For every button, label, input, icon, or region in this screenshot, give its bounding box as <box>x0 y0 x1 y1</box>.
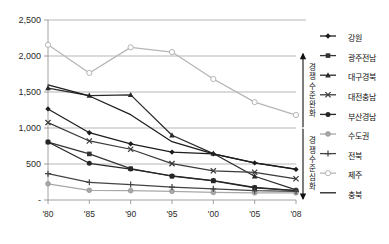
filled-circle-icon <box>326 112 331 117</box>
data-point-marker <box>128 188 133 193</box>
diamond-icon <box>45 106 50 111</box>
gray-circle-icon <box>128 188 133 193</box>
annotation-lower-char: 심 <box>309 172 316 182</box>
plus-icon <box>45 171 51 177</box>
data-point-marker <box>87 161 92 166</box>
annotation-upper: 경쟁수준완화 <box>300 53 316 127</box>
series-line <box>48 142 296 191</box>
x-axis-label: '85 <box>84 209 95 219</box>
annotation-upper-char: 준 <box>309 91 316 100</box>
y-axis-label: - <box>38 195 41 205</box>
square-icon <box>326 53 331 58</box>
legend-label-광주전남: 광주전남 <box>348 53 377 63</box>
legend-item-1[interactable]: 광주전남 <box>320 53 377 63</box>
y-axis-label: 2,500 <box>18 15 41 25</box>
plus-icon <box>128 182 134 188</box>
line-chart: -5001,0001,5002,0002,500'80'85'90'95'00'… <box>0 0 389 244</box>
data-point-marker <box>128 45 133 50</box>
data-point-marker <box>46 181 51 186</box>
legend-label-수도권: 수도권 <box>348 131 369 141</box>
square-icon <box>87 152 92 157</box>
gray-circle-icon <box>46 181 51 186</box>
legend-label-전북: 전북 <box>348 151 362 161</box>
arrow-down-icon <box>300 193 306 200</box>
annotation-upper-char: 완 <box>309 100 316 109</box>
data-point-marker <box>87 70 92 75</box>
data-point-marker <box>45 106 50 111</box>
y-axis-label: 1,500 <box>18 87 41 97</box>
legend-item-0[interactable]: 강원 <box>320 33 362 43</box>
legend-label-부산경남: 부산경남 <box>348 112 377 122</box>
plus-icon <box>325 151 331 157</box>
plus-icon <box>169 184 175 190</box>
data-point-marker <box>326 112 331 117</box>
data-point-marker <box>325 151 331 157</box>
annotation-upper-char: 화 <box>309 109 316 118</box>
data-point-marker <box>293 112 298 117</box>
series-7 <box>45 42 298 117</box>
x-axis-label: '90 <box>125 209 136 219</box>
data-point-marker <box>326 132 331 137</box>
annotation-lower-char: 수 <box>309 155 316 164</box>
filled-circle-icon <box>87 161 92 166</box>
legend-item-7[interactable]: 제주 <box>320 171 362 181</box>
legend-label-제주: 제주 <box>348 171 362 180</box>
open-circle-icon <box>169 49 174 54</box>
data-point-marker <box>211 178 216 183</box>
filled-circle-icon <box>211 178 216 183</box>
diamond-icon <box>87 130 92 135</box>
y-axis-label: 1,000 <box>18 123 41 133</box>
data-point-marker <box>87 188 92 193</box>
legend-item-5[interactable]: 수도권 <box>320 131 369 141</box>
filled-circle-icon <box>46 140 51 145</box>
x-axis-label: '00 <box>208 209 219 219</box>
legend-label-강원: 강원 <box>348 33 362 43</box>
annotation-lower-char: 경 <box>309 135 316 145</box>
x-axis-label: '80 <box>42 209 53 219</box>
legend-item-8[interactable]: 충북 <box>320 191 362 200</box>
open-circle-icon <box>45 42 50 47</box>
data-point-marker <box>252 99 257 104</box>
annotation-lower: 경쟁수준심화 <box>300 129 316 200</box>
x-axis-label: '95 <box>166 209 177 219</box>
legend-item-3[interactable]: 대전충남 <box>320 92 377 102</box>
data-point-marker <box>169 49 174 54</box>
legend-label-대구경북: 대구경북 <box>348 72 376 82</box>
data-point-marker <box>128 167 133 172</box>
open-circle-icon <box>87 70 92 75</box>
plus-icon <box>86 179 92 185</box>
legend-item-4[interactable]: 부산경남 <box>320 112 377 122</box>
chart-container: -5001,0001,5002,0002,500'80'85'90'95'00'… <box>0 0 389 244</box>
annotation-upper-char: 수 <box>309 82 316 91</box>
legend-label-충북: 충북 <box>348 191 362 200</box>
open-circle-icon <box>293 112 298 117</box>
legend-item-2[interactable]: 대구경북 <box>320 72 376 82</box>
data-point-marker <box>45 171 51 177</box>
data-point-marker <box>326 53 331 58</box>
filled-circle-icon <box>128 167 133 172</box>
data-point-marker <box>128 182 134 188</box>
legend-label-대전충남: 대전충남 <box>348 92 377 102</box>
data-point-marker <box>325 171 330 176</box>
x-axis-label: '05 <box>249 209 260 219</box>
diamond-icon <box>128 141 133 146</box>
data-point-marker <box>46 140 51 145</box>
arrow-up-icon <box>300 53 306 60</box>
data-point-marker <box>86 179 92 185</box>
series-line <box>48 85 296 169</box>
data-point-marker <box>45 42 50 47</box>
series-0 <box>45 106 298 172</box>
legend-item-6[interactable]: 전북 <box>320 151 362 161</box>
series-line <box>48 45 296 115</box>
series-line <box>48 142 296 191</box>
annotation-upper-char: 쟁 <box>309 71 316 81</box>
gray-circle-icon <box>326 132 331 137</box>
y-axis-label: 2,000 <box>18 51 41 61</box>
annotation-upper-char: 경 <box>309 62 316 72</box>
annotation-lower-char: 준 <box>309 164 316 173</box>
data-point-marker <box>87 130 92 135</box>
series-8 <box>48 85 296 169</box>
open-circle-icon <box>211 76 216 81</box>
annotation-lower-char: 쟁 <box>309 145 316 155</box>
diamond-icon <box>169 149 174 154</box>
